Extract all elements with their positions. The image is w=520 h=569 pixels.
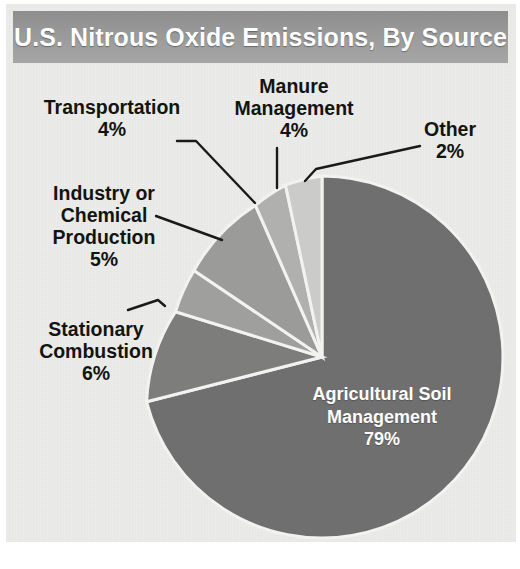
callout-label-other: Other 2% [398,118,502,162]
slice-label-agricultural-soil-management: Agricultural Soil Management 79% [282,383,482,451]
leader-line-stationary [128,300,165,310]
pie-chart-figure: U.S. Nitrous Oxide Emissions, By Source … [0,0,520,569]
callout-label-industry-chemical-production: Industry or Chemical Production 5% [14,182,194,270]
callout-label-manure-management: Manure Management 4% [212,75,376,141]
callout-label-transportation: Transportation 4% [22,96,202,140]
pie-slices [147,176,503,538]
callout-label-stationary-combustion: Stationary Combustion 6% [6,318,186,384]
